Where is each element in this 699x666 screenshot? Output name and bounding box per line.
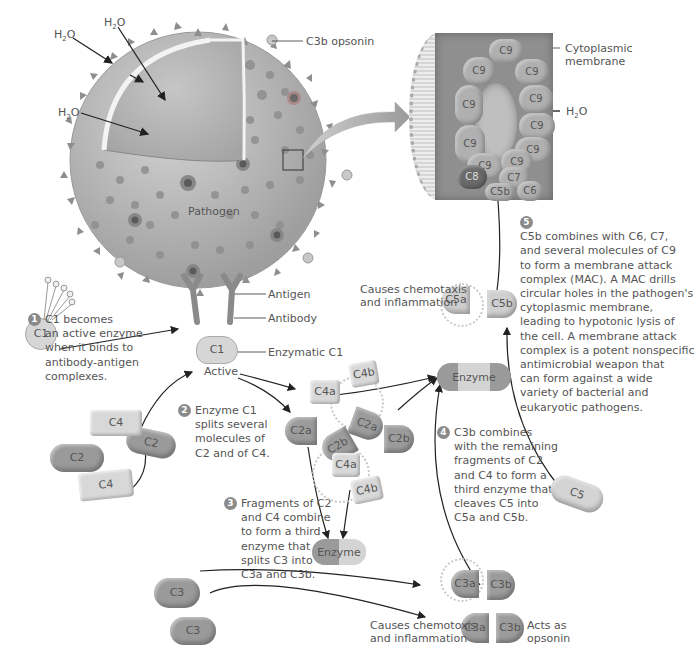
mac-c9-label: C9 [510, 156, 523, 167]
mac-c9-label: C9 [472, 65, 485, 76]
mac-water-label: H2O [566, 105, 587, 123]
c1-active-label: C1 [210, 343, 225, 356]
c3a-effect-label: Causes chemotoxis and inflammation [370, 619, 476, 645]
pathogen-cell [60, 22, 352, 296]
mac-c9-label: C9 [530, 120, 543, 131]
step-5: 5C5b combines with C6, C7, and several m… [520, 216, 699, 415]
antibody-label: Antibody [268, 312, 317, 325]
step-2-text: Enzyme C1 splits several molecules of C2… [195, 404, 270, 461]
enzyme-label: Enzyme [312, 539, 366, 565]
c4-molecule: C4 [90, 410, 142, 436]
step-4-badge: 4 [437, 426, 450, 439]
mac-c9-label: C9 [463, 138, 476, 149]
step-4: 4C3b combines with the remaining fragmen… [437, 426, 567, 525]
c3b-label: C3b [490, 578, 512, 591]
c3b-effect-label: Acts as opsonin [527, 619, 570, 645]
water-label-3: H2O [58, 106, 79, 124]
c2b-fragment: C2b [384, 425, 414, 453]
step-5-text: C5b combines with C6, C7, and several mo… [520, 230, 694, 415]
mac-inset: C9 C9 C9 C9 C9 C9 C9 C9 C9 C9 C8 C7 C6 C… [409, 33, 559, 200]
step-2-badge: 2 [178, 404, 191, 417]
mac-c7-label: C7 [507, 172, 520, 183]
c3a-label: C3a [454, 577, 475, 590]
c4a-label: C4a [335, 458, 356, 471]
mac-c5b: C5b [485, 183, 515, 201]
c4b-label: C4b [352, 365, 376, 382]
c3-label: C3 [186, 624, 201, 637]
c5-label: C5 [568, 485, 586, 502]
step-4-text: C3b combines with the remaining fragment… [454, 426, 558, 525]
c4b-fragment: C4b [348, 360, 380, 388]
enzymatic-c1-label: Enzymatic C1 [268, 346, 343, 359]
mac-c9: C9 [463, 57, 495, 85]
c2a-label: C2a [290, 424, 311, 437]
step-1-text: C1 becomes an active enzyme when it bind… [45, 313, 143, 384]
mac-c9-label: C9 [462, 99, 475, 110]
c2a-fragment: C2a [285, 417, 317, 445]
c4a-label: C4a [314, 385, 335, 398]
antigen-label: Antigen [268, 288, 311, 301]
pathogen-label: Pathogen [188, 205, 240, 218]
c1-active: C1 [196, 336, 238, 364]
mac-c9: C9 [489, 39, 523, 63]
c3b-label: C3b [499, 621, 521, 634]
mac-c9: C9 [515, 59, 549, 85]
c2-molecule: C2 [50, 444, 104, 472]
mac-c8: C8 [457, 165, 487, 189]
c2-label: C2 [70, 451, 85, 464]
c2-label: C2 [143, 435, 160, 451]
mac-c9: C9 [519, 85, 553, 113]
mac-c6: C6 [517, 181, 543, 201]
mac-c9-label: C9 [525, 66, 538, 77]
step-5-badge: 5 [520, 216, 533, 229]
water-label-1: H2O [104, 16, 125, 34]
c4a-fragment: C4a [332, 453, 360, 477]
c2b-label: C2b [388, 432, 410, 445]
mac-c5b-label: C5b [490, 186, 510, 197]
cytoplasmic-membrane-label: Cytoplasmic membrane [565, 42, 645, 68]
c4-label: C4 [109, 416, 124, 429]
c5b-label: C5b [491, 297, 513, 310]
step-3-badge: 3 [224, 497, 237, 510]
c4b-label: C4b [355, 481, 379, 498]
c5-convertase-enzyme: Enzyme [437, 363, 511, 391]
c3a-fragment: C3a [451, 570, 479, 598]
c4-molecule: C4 [78, 468, 135, 501]
c4a-fragment: C4a [310, 380, 340, 404]
c2a-label: C2a [355, 415, 380, 435]
c3-molecule: C3 [170, 617, 216, 645]
water-label-2: H2O [54, 28, 75, 46]
c4-label: C4 [98, 477, 114, 491]
c5b-fragment: C5b [487, 290, 517, 318]
step-1-badge: 1 [28, 313, 41, 326]
c3-convertase-enzyme: Enzyme [312, 539, 366, 565]
mac-c6-label: C6 [523, 185, 536, 196]
c3-molecule: C3 [154, 578, 200, 608]
mac-c9: C9 [519, 113, 555, 139]
step-1: 1C1 becomes an active enzyme when it bin… [28, 313, 158, 384]
mac-c8-label: C8 [465, 171, 478, 182]
mac-c9-label: C9 [499, 45, 512, 56]
c5a-effect-label: Causes chemotaxis and inflammation [360, 283, 467, 309]
mac-c9: C9 [455, 85, 483, 125]
mac-c9-label: C9 [529, 93, 542, 104]
c3b-opsonin-label: C3b opsonin [306, 35, 374, 48]
c3-label: C3 [170, 586, 185, 599]
c1-active-caption: Active [204, 365, 238, 378]
step-2: 2Enzyme C1 splits several molecules of C… [178, 404, 288, 461]
enzyme-label: Enzyme [437, 363, 511, 391]
